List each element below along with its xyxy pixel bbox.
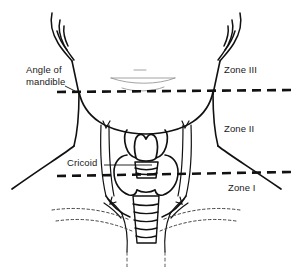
shoulder-left bbox=[12, 146, 74, 189]
angle-of-mandible-line2: mandible bbox=[26, 76, 65, 87]
cricoid-boundary-line bbox=[57, 172, 291, 176]
angle-of-mandible-leader bbox=[65, 86, 75, 91]
chin-underside-lines bbox=[111, 70, 175, 91]
sternocleidomastoid-right bbox=[178, 121, 191, 196]
mandible-angle-right bbox=[213, 61, 220, 94]
label-angle-of-mandible: Angle ofmandible bbox=[26, 64, 65, 87]
trachea bbox=[133, 196, 159, 243]
sternocleidomastoid-left bbox=[101, 121, 114, 196]
jaw-contour bbox=[79, 92, 213, 134]
angle-of-mandible-boundary-line bbox=[57, 90, 291, 92]
mandible-angle-left bbox=[72, 61, 79, 94]
label-cricoid: Cricoid bbox=[67, 157, 97, 169]
neck-zones-figure: Angle ofmandible Cricoid Zone III Zone I… bbox=[0, 0, 293, 267]
label-zone-ii: Zone II bbox=[224, 123, 254, 135]
ear-right bbox=[218, 13, 241, 61]
label-zone-iii: Zone III bbox=[224, 64, 257, 76]
label-zone-i: Zone I bbox=[228, 182, 256, 194]
ear-left bbox=[51, 13, 74, 61]
chest-outline bbox=[127, 252, 165, 267]
angle-of-mandible-line1: Angle of bbox=[26, 64, 62, 75]
